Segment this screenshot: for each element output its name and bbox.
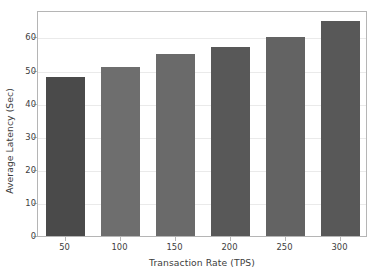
- x-tick-label-300: 300: [310, 242, 370, 252]
- x-axis-title: Transaction Rate (TPS): [37, 257, 367, 268]
- gridline-y-50: [38, 72, 366, 73]
- x-tick-mark-50: [65, 237, 66, 241]
- gridline-y-40: [38, 105, 366, 106]
- gridline-y-10: [38, 204, 366, 205]
- y-tick-label-30: 30: [6, 132, 36, 142]
- y-tick-label-0: 0: [6, 231, 36, 241]
- y-tick-label-40: 40: [6, 99, 36, 109]
- x-tick-mark-300: [340, 237, 341, 241]
- bar-150[interactable]: [156, 54, 195, 236]
- x-tick-label-150: 150: [145, 242, 205, 252]
- plot-area: [37, 11, 367, 237]
- x-tick-label-200: 200: [200, 242, 260, 252]
- bar-50[interactable]: [46, 77, 85, 236]
- bar-200[interactable]: [211, 47, 250, 236]
- y-tick-label-60: 60: [6, 32, 36, 42]
- x-tick-label-250: 250: [255, 242, 315, 252]
- x-tick-mark-150: [175, 237, 176, 241]
- x-tick-mark-250: [285, 237, 286, 241]
- gridline-y-60: [38, 38, 366, 39]
- y-tick-label-20: 20: [6, 165, 36, 175]
- x-tick-label-100: 100: [90, 242, 150, 252]
- x-tick-label-50: 50: [35, 242, 95, 252]
- gridline-y-30: [38, 138, 366, 139]
- bar-250[interactable]: [266, 37, 305, 236]
- y-tick-label-10: 10: [6, 198, 36, 208]
- bar-100[interactable]: [101, 67, 140, 236]
- y-tick-label-50: 50: [6, 66, 36, 76]
- x-tick-mark-100: [120, 237, 121, 241]
- x-tick-mark-200: [230, 237, 231, 241]
- bar-chart-figure: Average Latency (Sec) 0102030405060 5010…: [0, 0, 377, 276]
- gridline-y-20: [38, 171, 366, 172]
- bar-300[interactable]: [321, 21, 360, 236]
